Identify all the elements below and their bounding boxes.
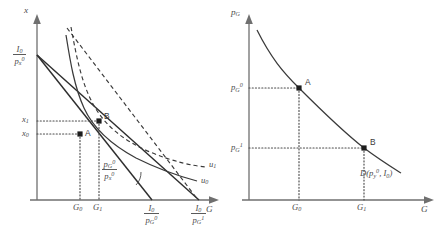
left-y-axis-label: x [24, 6, 28, 15]
right-panel-demand-curve: pG G pG0 pG1 G0 G1 D(py0, I0) A B [223, 0, 446, 238]
point-A-marker [77, 131, 82, 136]
left-x-axis-label: G [206, 205, 213, 214]
right-axes [242, 14, 434, 204]
budget-line-0 [37, 55, 152, 200]
left-y-tick-x0: x0 [22, 129, 29, 138]
left-point-A-label: A [85, 129, 91, 137]
left-point-B-label: B [104, 112, 110, 120]
economics-figure: x G I0 px0 x1 x0 G0 G1 I0 pG0 I0 pG1 pG0… [0, 0, 446, 238]
demand-curve [257, 30, 401, 173]
left-x-intercept-1-label: I0 pG1 [191, 203, 206, 226]
left-y-intercept-denominator: px0 [13, 55, 26, 66]
right-y-axis-label: pG [231, 8, 240, 17]
curve-label-u1: u1 [209, 160, 216, 169]
right-y-tick-pG0: pG0 [231, 82, 243, 93]
left-y-intercept-label: I0 px0 [13, 44, 26, 67]
left-x-tick-G0: G0 [73, 203, 82, 212]
right-y-tick-pG1: pG1 [231, 142, 243, 153]
demand-curve-label: D(py0, I0) [360, 168, 392, 179]
left-x-tick-G1: G1 [93, 203, 102, 212]
right-x-tick-G0: G0 [292, 203, 301, 212]
right-point-A-marker [296, 85, 301, 90]
left-axes [30, 14, 219, 204]
right-x-axis-label: G [421, 205, 428, 214]
left-y-axis-arrow [33, 14, 41, 24]
right-point-A-label: A [305, 78, 311, 86]
right-point-B-label: B [370, 138, 376, 146]
right-guide-lines [249, 88, 364, 200]
left-panel-indifference-curves: x G I0 px0 x1 x0 G0 G1 I0 pG0 I0 pG1 pG0… [0, 0, 223, 238]
curve-label-u0: u0 [201, 176, 208, 185]
left-x-axis-arrow [209, 196, 219, 204]
indifference-curve-u0 [66, 35, 197, 181]
right-point-B-marker [361, 145, 366, 150]
budget-line-1 [37, 55, 199, 200]
right-x-axis-arrow [424, 196, 434, 204]
point-B-marker [96, 118, 101, 123]
left-y-tick-x1: x1 [22, 115, 29, 124]
left-x-intercept-0-label: I0 pG0 [144, 203, 159, 226]
right-y-axis-arrow [245, 14, 253, 24]
budget-slope-label: pG0 px0 [102, 158, 117, 182]
left-y-intercept-numerator: I0 [13, 44, 26, 55]
right-x-tick-G1: G1 [357, 203, 366, 212]
